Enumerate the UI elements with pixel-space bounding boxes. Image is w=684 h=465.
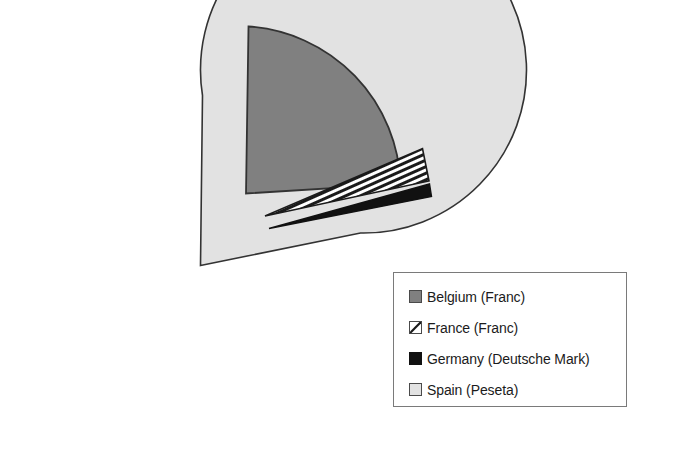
legend-label-france: France (Franc)	[427, 321, 518, 335]
legend-item-belgium: Belgium (Franc)	[409, 281, 619, 312]
legend-item-spain: Spain (Peseta)	[409, 374, 619, 405]
legend-item-list: Belgium (Franc) France (Franc) Germany (…	[409, 281, 619, 405]
legend-swatch-belgium-icon	[409, 290, 422, 303]
legend-item-germany: Germany (Deutsche Mark)	[409, 343, 619, 374]
legend-label-germany: Germany (Deutsche Mark)	[427, 352, 590, 366]
legend-label-belgium: Belgium (Franc)	[427, 290, 525, 304]
legend-swatch-spain-icon	[409, 383, 422, 396]
legend-swatch-germany-icon	[409, 352, 422, 365]
chart-legend: Belgium (Franc) France (Franc) Germany (…	[393, 272, 627, 407]
pie-chart-figure: Belgium (Franc) France (Franc) Germany (…	[0, 0, 684, 465]
legend-item-france: France (Franc)	[409, 312, 619, 343]
legend-label-spain: Spain (Peseta)	[427, 383, 518, 397]
france-hatch-pattern-icon	[410, 322, 421, 333]
legend-swatch-france-icon	[409, 321, 422, 334]
